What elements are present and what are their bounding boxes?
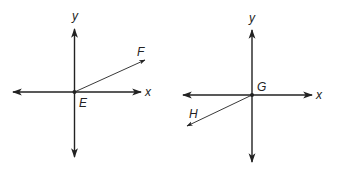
coordinate-plane-right: y x H G	[183, 11, 323, 162]
coordinate-plane-left: y x F E	[13, 9, 152, 157]
point-e	[73, 90, 77, 94]
ray-label-h: H	[189, 107, 198, 121]
origin-label-g: G	[257, 80, 266, 94]
ray-ef	[75, 60, 146, 92]
ray-label-f: F	[137, 45, 145, 59]
y-axis-label-right: y	[248, 11, 256, 25]
x-axis-label-right: x	[315, 88, 323, 102]
x-axis-label-left: x	[144, 85, 152, 99]
point-g	[250, 93, 254, 97]
diagram-canvas: y x F E y x H G	[0, 0, 339, 179]
y-axis-label-left: y	[71, 9, 79, 23]
origin-label-e: E	[79, 96, 88, 110]
